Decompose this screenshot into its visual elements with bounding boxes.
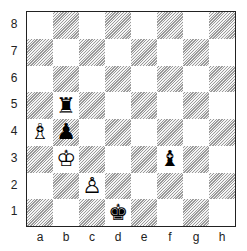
square-h8[interactable] [209, 12, 235, 39]
square-a2[interactable] [27, 173, 53, 200]
square-c8[interactable] [79, 12, 105, 39]
file-label-e: e [131, 230, 157, 244]
rank-label-7: 7 [8, 44, 20, 58]
square-f6[interactable] [157, 66, 183, 93]
file-label-b: b [53, 230, 79, 244]
square-c5[interactable] [79, 92, 105, 119]
square-g3[interactable] [183, 146, 209, 173]
square-h6[interactable] [209, 66, 235, 93]
white-pawn-icon[interactable]: ♙ [82, 175, 102, 197]
square-f4[interactable] [157, 119, 183, 146]
square-f5[interactable] [157, 92, 183, 119]
square-a5[interactable] [27, 92, 53, 119]
square-a7[interactable] [27, 39, 53, 66]
square-g5[interactable] [183, 92, 209, 119]
square-f2[interactable] [157, 173, 183, 200]
square-b1[interactable] [53, 199, 79, 226]
square-d5[interactable] [105, 92, 131, 119]
file-label-h: h [209, 230, 235, 244]
square-f7[interactable] [157, 39, 183, 66]
square-d2[interactable] [105, 173, 131, 200]
square-e7[interactable] [131, 39, 157, 66]
black-pawn-icon[interactable]: ♟ [56, 121, 76, 143]
square-d6[interactable] [105, 66, 131, 93]
square-e5[interactable] [131, 92, 157, 119]
square-e6[interactable] [131, 66, 157, 93]
white-king-icon[interactable]: ♔ [56, 148, 76, 170]
square-g4[interactable] [183, 119, 209, 146]
rank-label-6: 6 [8, 71, 20, 85]
square-e1[interactable] [131, 199, 157, 226]
square-c3[interactable] [79, 146, 105, 173]
square-a8[interactable] [27, 12, 53, 39]
square-b3[interactable]: ♔ [53, 146, 79, 173]
file-label-a: a [27, 230, 53, 244]
rank-label-1: 1 [8, 204, 20, 218]
square-b6[interactable] [53, 66, 79, 93]
square-b2[interactable] [53, 173, 79, 200]
white-bishop-icon[interactable]: ♗ [30, 121, 50, 143]
square-g8[interactable] [183, 12, 209, 39]
rank-label-4: 4 [8, 124, 20, 138]
square-c6[interactable] [79, 66, 105, 93]
square-c4[interactable] [79, 119, 105, 146]
chess-board: ♜♗♟♔♝♙♚ [26, 11, 236, 227]
square-a4[interactable]: ♗ [27, 119, 53, 146]
square-d8[interactable] [105, 12, 131, 39]
square-g1[interactable] [183, 199, 209, 226]
file-label-g: g [183, 230, 209, 244]
file-label-d: d [105, 230, 131, 244]
rank-label-2: 2 [8, 178, 20, 192]
square-f1[interactable] [157, 199, 183, 226]
square-b4[interactable]: ♟ [53, 119, 79, 146]
black-king-icon[interactable]: ♚ [108, 202, 128, 224]
square-e8[interactable] [131, 12, 157, 39]
file-label-f: f [157, 230, 183, 244]
square-c2[interactable]: ♙ [79, 173, 105, 200]
square-e2[interactable] [131, 173, 157, 200]
black-rook-icon[interactable]: ♜ [56, 95, 76, 117]
square-h4[interactable] [209, 119, 235, 146]
rank-label-3: 3 [8, 151, 20, 165]
square-g2[interactable] [183, 173, 209, 200]
square-e3[interactable] [131, 146, 157, 173]
square-d7[interactable] [105, 39, 131, 66]
rank-label-8: 8 [8, 17, 20, 31]
square-c7[interactable] [79, 39, 105, 66]
square-h7[interactable] [209, 39, 235, 66]
square-h5[interactable] [209, 92, 235, 119]
square-d3[interactable] [105, 146, 131, 173]
square-c1[interactable] [79, 199, 105, 226]
square-b5[interactable]: ♜ [53, 92, 79, 119]
square-f3[interactable]: ♝ [157, 146, 183, 173]
square-d4[interactable] [105, 119, 131, 146]
square-g6[interactable] [183, 66, 209, 93]
rank-label-5: 5 [8, 97, 20, 111]
square-a1[interactable] [27, 199, 53, 226]
square-a3[interactable] [27, 146, 53, 173]
square-g7[interactable] [183, 39, 209, 66]
square-h2[interactable] [209, 173, 235, 200]
file-label-c: c [79, 230, 105, 244]
square-e4[interactable] [131, 119, 157, 146]
black-bishop-icon[interactable]: ♝ [160, 148, 180, 170]
square-a6[interactable] [27, 66, 53, 93]
square-d1[interactable]: ♚ [105, 199, 131, 226]
square-h3[interactable] [209, 146, 235, 173]
square-b8[interactable] [53, 12, 79, 39]
square-f8[interactable] [157, 12, 183, 39]
square-h1[interactable] [209, 199, 235, 226]
square-b7[interactable] [53, 39, 79, 66]
